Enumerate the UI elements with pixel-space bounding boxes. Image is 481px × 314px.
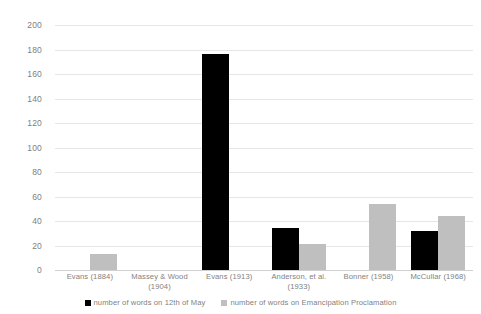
y-tick-label: 100	[27, 143, 42, 152]
bar-group	[125, 25, 195, 270]
x-tick-label: Anderson, et al. (1933)	[264, 272, 334, 293]
y-tick-label: 60	[32, 192, 42, 201]
x-tick-label: Evans (1913)	[194, 272, 264, 293]
legend-swatch-icon	[85, 300, 91, 306]
legend-entry[interactable]: number of words on Emancipation Proclama…	[221, 299, 396, 307]
y-tick-label: 160	[27, 70, 42, 79]
y-tick-label: 40	[32, 217, 42, 226]
y-tick-label: 120	[27, 119, 42, 128]
chart-legend: number of words on 12th of Maynumber of …	[0, 299, 481, 307]
bars-layer	[55, 25, 473, 270]
gridline-0	[55, 270, 473, 271]
bar-group	[403, 25, 473, 270]
legend-swatch-icon	[221, 300, 227, 306]
bar-group	[264, 25, 334, 270]
x-tick-label: Massey & Wood (1904)	[125, 272, 195, 293]
y-tick-label: 80	[32, 168, 42, 177]
bar-group	[194, 25, 264, 270]
x-axis: Evans (1884)Massey & Wood (1904)Evans (1…	[55, 272, 473, 293]
bar[interactable]	[90, 254, 117, 270]
x-tick-label: Evans (1884)	[55, 272, 125, 293]
bar-group	[334, 25, 404, 270]
x-tick-label: McCullar (1968)	[403, 272, 473, 293]
legend-label: number of words on Emancipation Proclama…	[230, 299, 396, 307]
y-tick-label: 180	[27, 45, 42, 54]
bar[interactable]	[438, 216, 465, 270]
bar[interactable]	[202, 54, 229, 270]
y-axis: 200180160140120100806040200	[0, 25, 48, 270]
y-tick-label: 0	[37, 266, 42, 275]
bar-chart: 200180160140120100806040200 Evans (1884)…	[0, 0, 481, 314]
y-tick-label: 200	[27, 21, 42, 30]
legend-entry[interactable]: number of words on 12th of May	[85, 299, 206, 307]
bar-group	[55, 25, 125, 270]
bar[interactable]	[411, 231, 438, 270]
bar[interactable]	[272, 228, 299, 270]
x-tick-label: Bonner (1958)	[334, 272, 404, 293]
bar[interactable]	[299, 244, 326, 270]
y-tick-label: 140	[27, 94, 42, 103]
y-tick-label: 20	[32, 241, 42, 250]
legend-label: number of words on 12th of May	[94, 299, 206, 307]
bar[interactable]	[369, 204, 396, 270]
